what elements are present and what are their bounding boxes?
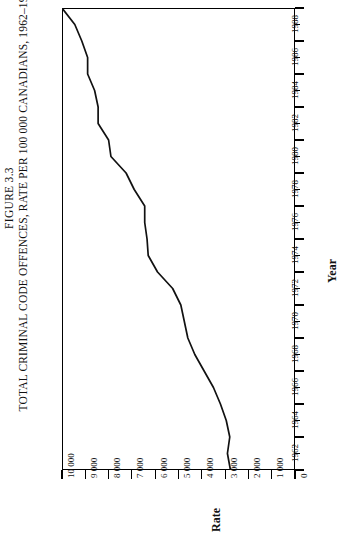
data-series-line — [62, 8, 230, 470]
rate-tick — [225, 470, 226, 479]
figure-caption: TOTAL CRIMINAL CODE OFFENCES, RATE PER 1… — [16, 0, 30, 418]
rate-tick — [85, 470, 86, 479]
year-tick-label: 1972 — [290, 271, 302, 305]
year-tick-label: 1964 — [290, 403, 302, 437]
rate-tick — [178, 470, 179, 479]
year-tick-label: 1980 — [290, 139, 302, 173]
year-tick-label: 1986 — [290, 40, 302, 74]
rate-tick-label: 9 000 — [89, 438, 99, 478]
rate-tick — [201, 470, 202, 479]
rate-tick — [61, 470, 62, 479]
year-tick-label: 1988 — [290, 7, 302, 41]
rate-tick — [155, 470, 156, 479]
rate-tick-label: 4 000 — [205, 438, 215, 478]
year-tick-label: 1970 — [290, 304, 302, 338]
year-tick-label: 1978 — [290, 172, 302, 206]
line-chart-plot — [62, 8, 295, 470]
rate-tick — [248, 470, 249, 479]
year-tick-label: 1974 — [290, 238, 302, 272]
year-tick-label: 1976 — [290, 205, 302, 239]
rate-tick-label: 1 000 — [275, 438, 285, 478]
year-tick-label: 1990 — [290, 0, 302, 8]
figure-container: FIGURE 3.3 TOTAL CRIMINAL CODE OFFENCES,… — [0, 0, 350, 559]
rate-tick-label: 8 000 — [112, 438, 122, 478]
figure-number: FIGURE 3.3 — [2, 0, 16, 418]
rate-tick-label: 6 000 — [159, 438, 169, 478]
figure-title: FIGURE 3.3 TOTAL CRIMINAL CODE OFFENCES,… — [2, 0, 38, 418]
rate-tick — [294, 470, 295, 479]
year-tick-label: 1968 — [290, 337, 302, 371]
year-tick-label: 1962 — [290, 436, 302, 470]
rate-tick-label: 7 000 — [135, 438, 145, 478]
year-tick-label: 1966 — [290, 370, 302, 404]
rate-axis-title: Rate — [209, 499, 225, 541]
rate-tick — [108, 470, 109, 479]
rate-tick — [271, 470, 272, 479]
rate-tick-label: 2 000 — [252, 438, 262, 478]
rate-tick-label: 3 000 — [229, 438, 239, 478]
year-axis-title: Year — [325, 251, 341, 291]
rate-tick-label: 10 000 — [66, 438, 76, 478]
rate-tick — [131, 470, 132, 479]
year-tick-label: 1984 — [290, 73, 302, 107]
year-tick-label: 1982 — [290, 106, 302, 140]
rate-tick-label: 5 000 — [182, 438, 192, 478]
